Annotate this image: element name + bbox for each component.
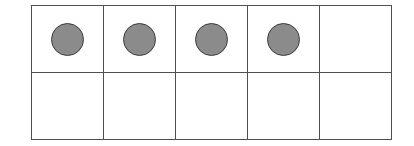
counter-circle[interactable]: [195, 23, 228, 56]
frame-cell-r1c3[interactable]: [176, 6, 248, 73]
frame-cell-r2c1[interactable]: [32, 73, 104, 140]
counter-circle[interactable]: [51, 23, 84, 56]
frame-cell-r1c1[interactable]: [32, 6, 104, 73]
frame-cell-r1c5[interactable]: [320, 6, 392, 73]
ten-frame-figure: [0, 0, 414, 146]
frame-cell-r1c2[interactable]: [104, 6, 176, 73]
frame-cell-r2c4[interactable]: [248, 73, 320, 140]
frame-cell-r1c4[interactable]: [248, 6, 320, 73]
frame-cell-r2c5[interactable]: [320, 73, 392, 140]
counter-circle[interactable]: [267, 23, 300, 56]
ten-frame-grid: [31, 5, 392, 140]
frame-cell-r2c3[interactable]: [176, 73, 248, 140]
counter-circle[interactable]: [123, 23, 156, 56]
frame-cell-r2c2[interactable]: [104, 73, 176, 140]
